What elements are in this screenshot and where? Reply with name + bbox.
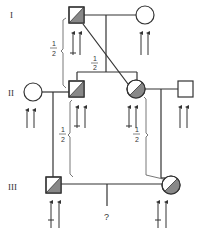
- svg-text:1: 1: [93, 55, 97, 62]
- unknown-child-question-mark: ?: [104, 212, 109, 222]
- svg-text:2: 2: [61, 136, 65, 143]
- fraction-gen2-left: 1 2: [59, 126, 66, 143]
- individual-I-1-male-carrier: [69, 7, 84, 23]
- fraction-gen2-right: 1 2: [133, 126, 140, 143]
- generation-label-3: III: [8, 182, 17, 192]
- fraction-gen1-diagonal: 1 2: [91, 55, 98, 71]
- svg-text:1: 1: [61, 126, 65, 133]
- fraction-gen1-left: 1 2: [50, 40, 57, 57]
- individual-II-4-male: [178, 81, 193, 97]
- individual-III-2-female-carrier: [162, 176, 180, 194]
- individual-III-1-male-carrier: [46, 177, 61, 193]
- svg-text:2: 2: [135, 136, 139, 143]
- svg-text:1: 1: [52, 40, 56, 47]
- svg-text:2: 2: [52, 50, 56, 57]
- svg-text:2: 2: [93, 64, 97, 71]
- generation-label-2: II: [8, 88, 14, 98]
- individual-I-2-female: [136, 6, 154, 24]
- pedigree-diagram: I II III 1: [0, 0, 202, 234]
- mutant-allele-crossbars: [48, 53, 161, 220]
- individual-II-2-male-carrier: [69, 81, 84, 97]
- individual-II-1-female: [24, 83, 42, 101]
- individual-II-3-female-carrier: [127, 80, 145, 98]
- generation-label-1: I: [10, 10, 13, 20]
